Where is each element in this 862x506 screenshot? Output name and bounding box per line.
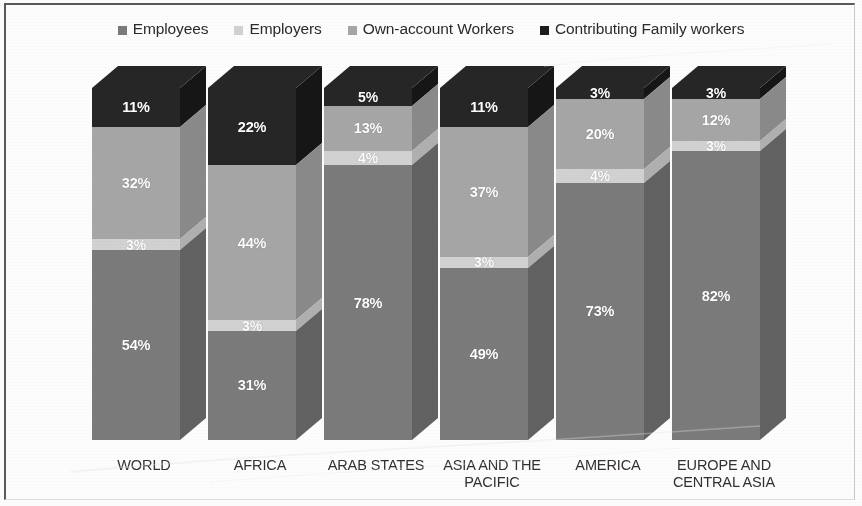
bar-top-face	[440, 66, 554, 88]
bar-segment[interactable]: 4%	[324, 151, 412, 165]
bar-group[interactable]: 11%32%3%54%	[92, 88, 180, 440]
bar-segment-label: 3%	[242, 318, 262, 334]
bar-segment-label: 3%	[706, 85, 726, 101]
bar-segment[interactable]: 54%	[92, 250, 180, 440]
category-label-line: AMERICA	[575, 457, 640, 473]
bar-segment[interactable]: 13%	[324, 106, 412, 152]
bar-segment-label: 11%	[122, 99, 150, 115]
category-label: EUROPE ANDCENTRAL ASIA	[650, 457, 798, 491]
category-label-line: ASIA AND THE	[443, 457, 541, 473]
bar-segment-label: 54%	[122, 337, 150, 353]
bar-segment[interactable]: 78%	[324, 165, 412, 440]
bar-front-face: 22%44%3%31%	[208, 88, 296, 440]
bar-segment[interactable]: 37%	[440, 127, 528, 257]
bar-segment[interactable]: 4%	[556, 169, 644, 183]
bar-segment[interactable]: 3%	[92, 239, 180, 250]
bar-segment[interactable]: 3%	[672, 141, 760, 152]
bar-front-face: 11%37%3%49%	[440, 88, 528, 440]
bar-segment[interactable]: 31%	[208, 331, 296, 440]
bar-top-face	[208, 66, 322, 88]
bar-segment-label: 37%	[470, 184, 498, 200]
bar-group[interactable]: 3%20%4%73%	[556, 88, 644, 440]
bar-side-segment	[644, 161, 670, 440]
bar-front-face: 5%13%4%78%	[324, 88, 412, 440]
bar-side-segment	[528, 245, 554, 439]
bar-front-face: 3%20%4%73%	[556, 88, 644, 440]
bar-segment[interactable]: 22%	[208, 88, 296, 165]
bar-segment[interactable]: 5%	[324, 88, 412, 106]
bar-group[interactable]: 22%44%3%31%	[208, 88, 296, 440]
bar-segment-label: 44%	[238, 235, 266, 251]
bar-segment[interactable]: 11%	[440, 88, 528, 127]
bar-segment-label: 20%	[586, 126, 614, 142]
bar-side-face	[644, 66, 670, 440]
bar-top-face	[324, 66, 438, 88]
category-label-line: EUROPE AND	[677, 457, 771, 473]
bar-segment-label: 78%	[354, 295, 382, 311]
bar-segment-label: 3%	[706, 138, 726, 154]
bar-segment[interactable]: 82%	[672, 151, 760, 440]
bar-top-face	[672, 66, 786, 88]
bar-segment-label: 3%	[590, 85, 610, 101]
bar-segment[interactable]: 3%	[556, 88, 644, 99]
bar-segment[interactable]: 3%	[672, 88, 760, 99]
bar-segment-label: 31%	[238, 377, 266, 393]
bar-side-face	[180, 66, 206, 440]
bar-side-face	[528, 66, 554, 440]
bar-group[interactable]: 11%37%3%49%	[440, 88, 528, 440]
bar-segment[interactable]: 11%	[92, 88, 180, 127]
bar-segment-label: 22%	[238, 119, 266, 135]
bar-side-face	[412, 66, 438, 440]
bar-segment-label: 5%	[358, 89, 378, 105]
bar-segment-label: 13%	[354, 120, 382, 136]
bar-segment-label: 32%	[122, 175, 150, 191]
bar-segment-label: 4%	[590, 168, 610, 184]
category-label-line: WORLD	[117, 457, 170, 473]
bar-top-face	[556, 66, 670, 88]
category-label-line: PACIFIC	[418, 474, 566, 491]
category-label-line: ARAB STATES	[328, 457, 425, 473]
bar-side-segment	[412, 143, 438, 440]
bar-side-segment	[760, 129, 786, 440]
bar-side-segment	[180, 228, 206, 440]
chart-container: EmployeesEmployersOwn-account WorkersCon…	[0, 0, 862, 506]
bar-segment-label: 11%	[470, 99, 498, 115]
bar-segment-label: 3%	[126, 237, 146, 253]
bar-front-face: 3%12%3%82%	[672, 88, 760, 440]
bar-segment-label: 4%	[358, 150, 378, 166]
bar-segment-label: 82%	[702, 288, 730, 304]
bar-segment-label: 12%	[702, 112, 730, 128]
bar-segment[interactable]: 3%	[440, 257, 528, 268]
bar-top-face	[92, 66, 206, 88]
bar-segment[interactable]: 12%	[672, 99, 760, 141]
bar-segment[interactable]: 3%	[208, 320, 296, 331]
bar-side-face	[760, 66, 786, 440]
bar-segment[interactable]: 32%	[92, 127, 180, 240]
bar-segment-label: 3%	[474, 254, 494, 270]
bar-segment[interactable]: 44%	[208, 165, 296, 320]
plot-area: 11%32%3%54%WORLD22%44%3%31%AFRICA5%13%4%…	[0, 0, 862, 506]
bar-segment-label: 73%	[586, 303, 614, 319]
category-label-line: AFRICA	[234, 457, 287, 473]
bar-side-segment	[296, 309, 322, 440]
bar-segment[interactable]: 49%	[440, 268, 528, 440]
bar-segment[interactable]: 20%	[556, 99, 644, 169]
bar-side-segment	[528, 105, 554, 257]
bar-side-face	[296, 66, 322, 440]
bar-group[interactable]: 5%13%4%78%	[324, 88, 412, 440]
bar-segment-label: 49%	[470, 346, 498, 362]
bar-group[interactable]: 3%12%3%82%	[672, 88, 760, 440]
bar-segment[interactable]: 73%	[556, 183, 644, 440]
bar-front-face: 11%32%3%54%	[92, 88, 180, 440]
category-label-line: CENTRAL ASIA	[650, 474, 798, 491]
bar-side-segment	[296, 143, 322, 320]
